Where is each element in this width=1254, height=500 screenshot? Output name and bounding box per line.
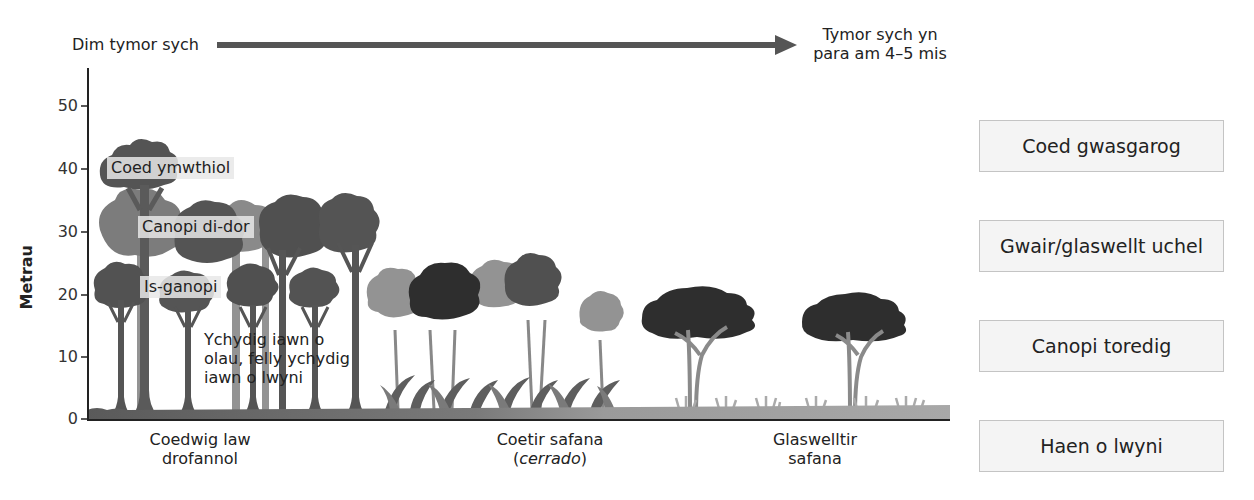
biome-label-rainforest: Coedwig law drofannol — [130, 430, 270, 468]
biome-grassland-line1: Glaswelltir — [745, 430, 885, 449]
layer-box-broken-canopy: Canopi toredig — [979, 320, 1224, 372]
note-line-2: olau, felly ychydig — [204, 349, 350, 368]
biome-label-grassland: Glaswelltir safana — [745, 430, 885, 468]
y-tick-30: 30 — [38, 222, 78, 241]
biome-grassland-line2: safana — [745, 449, 885, 468]
biome-rainforest-line1: Coedwig law — [130, 430, 270, 449]
y-tick-50: 50 — [38, 96, 78, 115]
cerrado-trees-icon — [367, 253, 624, 410]
layer-box-shrub-layer: Haen o lwyni — [979, 420, 1224, 472]
y-tick-40: 40 — [38, 159, 78, 178]
note-line-3: iawn o lwyni — [204, 368, 350, 387]
biome-rainforest-line2: drofannol — [130, 449, 270, 468]
y-axis-title: Metrau — [17, 250, 36, 310]
note-line-1: Ychydig iawn o — [204, 330, 350, 349]
biome-label-cerrado: Coetir safana (cerrado) — [470, 430, 630, 468]
ground-icon — [87, 405, 950, 420]
label-emergent: Coed ymwthiol — [107, 157, 234, 179]
savanna-trees-icon — [642, 286, 924, 415]
y-tick-20: 20 — [38, 285, 78, 304]
layer-box-tall-grass: Gwair/glaswellt uchel — [979, 220, 1224, 272]
label-low-light-note: Ychydig iawn o olau, felly ychydig iawn … — [204, 330, 350, 387]
label-canopy: Canopi di-dor — [138, 216, 254, 238]
biome-cerrado-line2: (cerrado) — [470, 449, 630, 468]
y-tick-10: 10 — [38, 347, 78, 366]
label-understorey: Is-ganopi — [140, 276, 221, 298]
biome-cerrado-italic: cerrado — [519, 449, 581, 468]
biome-cerrado-line1: Coetir safana — [470, 430, 630, 449]
y-tick-0: 0 — [38, 409, 78, 428]
layer-box-scattered-trees: Coed gwasgarog — [979, 120, 1224, 172]
